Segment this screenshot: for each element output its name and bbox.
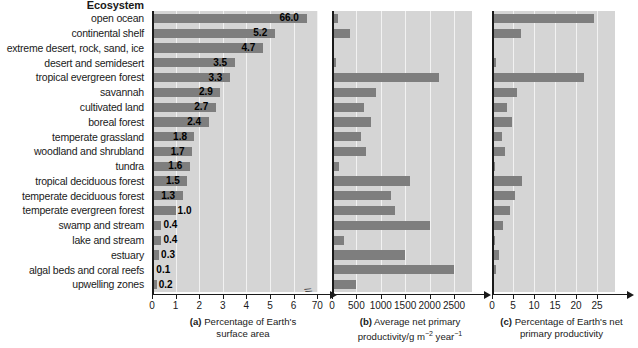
panel-c-caption: (c) Percentage of Earth's netprimary pro… — [492, 316, 631, 339]
x-axis-tick-label: 10 — [528, 301, 539, 311]
bar-row — [152, 43, 318, 52]
bar-row — [492, 43, 615, 52]
x-axis-tick-label: 6 — [291, 301, 297, 311]
bar — [492, 88, 517, 97]
bar-value-label: 2.9 — [199, 87, 213, 97]
bar-row — [492, 88, 615, 97]
ecosystem-label: savannah — [0, 87, 144, 98]
panel-b-net-primary-productivity: 05001000150020002500(b) Average net prim… — [332, 11, 502, 344]
bar-row — [492, 103, 615, 112]
bar-row — [152, 191, 318, 200]
bar-value-label: 1.3 — [161, 191, 175, 201]
x-axis-tick — [332, 295, 333, 299]
bar-value-label: 4.7 — [242, 43, 256, 53]
x-axis-tick — [513, 295, 514, 299]
bar — [492, 103, 507, 112]
x-axis-tick-label: 70 — [312, 301, 323, 311]
x-axis-tick — [576, 295, 577, 299]
bar-row — [152, 280, 318, 289]
bar-row — [332, 280, 472, 289]
bar-value-label: 3.5 — [213, 58, 227, 68]
bar — [332, 206, 395, 215]
bar — [332, 88, 376, 97]
bar-row — [332, 191, 472, 200]
y-axis-line — [492, 11, 494, 295]
bar — [332, 280, 356, 289]
ecosystem-label: cultivated land — [0, 102, 144, 113]
x-axis-tick-label: 1500 — [394, 301, 416, 311]
ecosystem-label: extreme desert, rock, sand, ice — [0, 43, 144, 54]
ecosystem-label: algal beds and coral reefs — [0, 265, 144, 276]
x-axis-tick — [534, 295, 535, 299]
bar-value-label: 1.7 — [171, 147, 185, 157]
bar — [332, 250, 405, 259]
ecosystem-label: tundra — [0, 161, 144, 172]
ecosystem-label: tropical evergreen forest — [0, 72, 144, 83]
panel-a-surface-area: 66.05.24.73.53.32.92.72.41.81.71.61.51.3… — [152, 11, 348, 344]
bar-value-label: 2.7 — [194, 102, 208, 112]
bar-row — [332, 58, 472, 67]
panel-c-percentage-npp: 0510152025(c) Percentage of Earth's netp… — [492, 11, 638, 344]
bar-row — [492, 147, 615, 156]
x-axis-tick-label: 4 — [244, 301, 250, 311]
y-axis-line — [152, 11, 154, 295]
bar-value-label: 2.4 — [187, 117, 201, 127]
bar-row — [152, 73, 318, 82]
x-axis-tick-label: 2 — [196, 301, 202, 311]
bar-value-label: 1.6 — [168, 161, 182, 171]
x-axis-tick-label: 2500 — [443, 301, 465, 311]
bar — [332, 176, 410, 185]
x-axis-line — [332, 294, 484, 296]
ecosystem-label-column: open oceancontinental shelfextreme deser… — [0, 11, 148, 292]
bar-row — [332, 117, 472, 126]
ecosystem-label: lake and stream — [0, 235, 144, 246]
bar — [492, 206, 510, 215]
bar-value-label: 0.2 — [159, 280, 173, 290]
panel-a-plot: 66.05.24.73.53.32.92.72.41.81.71.61.51.3… — [152, 11, 318, 292]
bar — [492, 73, 584, 82]
x-axis-tick-label: 25 — [591, 301, 602, 311]
bar-value-label: 3.3 — [208, 73, 222, 83]
x-axis-tick-label: 1 — [173, 301, 179, 311]
bar-row — [492, 265, 615, 274]
bar-value-label: 1.8 — [173, 132, 187, 142]
bar-row — [332, 103, 472, 112]
x-axis-tick — [199, 295, 200, 299]
x-axis-tick — [492, 295, 493, 299]
x-axis-tick — [454, 295, 455, 299]
bar-row — [332, 132, 472, 141]
bar-row — [492, 236, 615, 245]
x-axis-tick-label: 15 — [549, 301, 560, 311]
bar — [332, 191, 391, 200]
bar-row — [492, 132, 615, 141]
x-axis-tick-label: 0 — [149, 301, 155, 311]
bar-row — [332, 162, 472, 171]
bar — [152, 206, 176, 215]
bar — [492, 29, 521, 38]
bar-row — [492, 206, 615, 215]
x-axis-tick-label: 5 — [510, 301, 516, 311]
bar — [332, 221, 430, 230]
ecosystem-label: continental shelf — [0, 28, 144, 39]
x-axis-arrow — [484, 291, 491, 299]
bar-value-label: 1.0 — [178, 206, 192, 216]
panel-b-caption: (b) Average net primaryproductivity/g m−… — [332, 316, 488, 342]
x-axis-tick — [555, 295, 556, 299]
bar-value-label: 1.5 — [166, 176, 180, 186]
bar-row — [332, 206, 472, 215]
panel-c-plot — [492, 11, 615, 292]
ecosystem-label: woodland and shrubland — [0, 146, 144, 157]
bar-row — [332, 73, 472, 82]
ecosystem-label: temperate grassland — [0, 132, 144, 143]
ecosystem-label: temperate deciduous forest — [0, 191, 144, 202]
bar-row — [492, 73, 615, 82]
bar-row — [492, 162, 615, 171]
column-header-ecosystem: Ecosystem — [0, 0, 148, 11]
panel-b-plot — [332, 11, 472, 292]
bar — [492, 147, 505, 156]
x-axis-tick-label: 0 — [329, 301, 335, 311]
bar — [332, 73, 439, 82]
bar-row — [332, 29, 472, 38]
ecosystem-label: estuary — [0, 250, 144, 261]
bar-row — [492, 191, 615, 200]
